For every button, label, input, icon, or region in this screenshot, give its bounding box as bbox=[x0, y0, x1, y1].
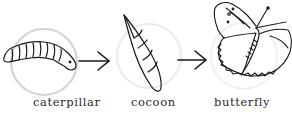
caterpillar-icon bbox=[4, 42, 76, 70]
cocoon-stage bbox=[117, 15, 181, 91]
butterfly-icon bbox=[214, 3, 291, 76]
cocoon-label: cocoon bbox=[131, 95, 176, 109]
caterpillar-circle bbox=[11, 29, 77, 95]
cocoon-icon bbox=[124, 15, 161, 91]
caterpillar-label: caterpillar bbox=[33, 95, 101, 109]
arrow-right-icon bbox=[178, 51, 206, 69]
caterpillar-stage bbox=[4, 29, 77, 95]
arrow-right-icon bbox=[79, 52, 109, 70]
butterfly-stage bbox=[211, 3, 291, 89]
butterfly-label: butterfly bbox=[214, 95, 270, 109]
